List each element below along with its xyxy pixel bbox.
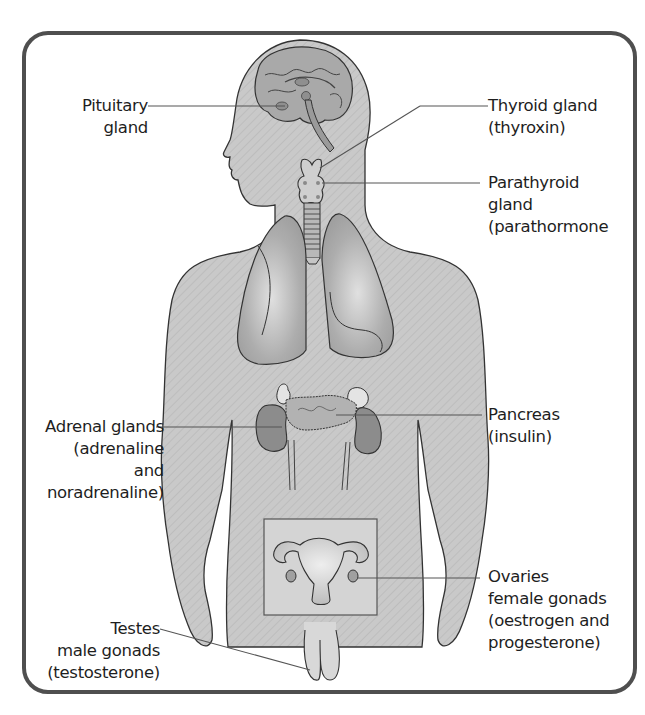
label-line: Pancreas [488, 404, 560, 426]
label-line: and [24, 460, 164, 482]
label-testes: Testes male gonads (testosterone) [26, 618, 160, 684]
label-pituitary-gland: Pituitary gland [60, 95, 148, 139]
label-ovaries: Ovaries female gonads (oestrogen and pro… [488, 566, 609, 654]
label-adrenal-glands: Adrenal glands (adrenaline and noradrena… [24, 416, 164, 504]
label-line: Pituitary [60, 95, 148, 117]
label-line: progesterone) [488, 632, 609, 654]
label-pancreas: Pancreas (insulin) [488, 404, 560, 448]
label-line: (parathormone [488, 216, 608, 238]
label-line: noradrenaline) [24, 482, 164, 504]
label-thyroid-gland: Thyroid gland (thyroxin) [488, 95, 597, 139]
thyroid-gland [298, 159, 324, 204]
label-line: male gonads [26, 640, 160, 662]
label-line: (insulin) [488, 426, 560, 448]
testes [304, 622, 339, 680]
label-line: Testes [26, 618, 160, 640]
label-parathyroid-gland: Parathyroid gland (parathormone [488, 172, 608, 238]
label-line: (adrenaline [24, 438, 164, 460]
reproductive-inset [264, 519, 377, 615]
label-line: (thyroxin) [488, 117, 597, 139]
label-line: gland [60, 117, 148, 139]
label-line: Thyroid gland [488, 95, 597, 117]
label-line: (oestrogen and [488, 610, 609, 632]
label-line: female gonads [488, 588, 609, 610]
label-line: Parathyroid [488, 172, 608, 194]
label-line: Ovaries [488, 566, 609, 588]
label-line: (testosterone) [26, 662, 160, 684]
label-line: Adrenal glands [24, 416, 164, 438]
label-line: gland [488, 194, 608, 216]
